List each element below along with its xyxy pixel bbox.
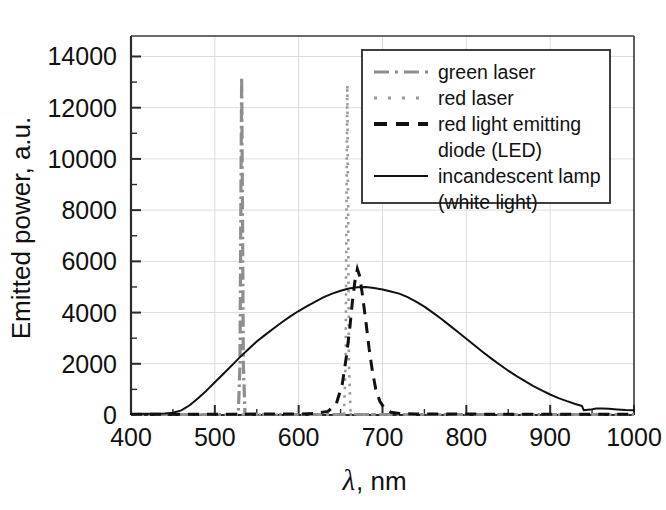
legend-label: red light emitting <box>438 113 581 135</box>
x-axis-title-symbol: λ <box>341 464 355 496</box>
legend-label-continued: (white light) <box>438 191 538 213</box>
spectrum-chart-figure: 4005006007008009001000 02000400060008000… <box>0 0 666 510</box>
legend-label: incandescent lamp <box>438 165 601 187</box>
legend-label: green laser <box>438 61 536 83</box>
y-tick-label: 8000 <box>61 196 117 224</box>
y-tick-label: 0 <box>103 401 117 429</box>
legend-label: red laser <box>438 87 514 109</box>
chart-canvas: 4005006007008009001000 02000400060008000… <box>0 0 666 510</box>
y-tick-label: 10000 <box>47 145 117 173</box>
y-tick-label: 4000 <box>61 299 117 327</box>
x-tick-label: 600 <box>278 423 320 451</box>
y-axis-title: Emitted power, a.u. <box>6 117 36 340</box>
x-tick-label: 500 <box>194 423 236 451</box>
x-tick-label: 1000 <box>606 423 662 451</box>
legend-label-continued: diode (LED) <box>438 139 542 161</box>
y-tick-label: 6000 <box>61 247 117 275</box>
y-tick-label: 12000 <box>47 94 117 122</box>
x-tick-label: 900 <box>529 423 571 451</box>
x-axis-title-unit: , nm <box>356 466 407 496</box>
y-tick-label: 14000 <box>47 42 117 70</box>
y-tick-label: 2000 <box>61 350 117 378</box>
x-tick-label: 700 <box>362 423 404 451</box>
chart-legend[interactable]: green laserred laserred light emittingdi… <box>362 50 610 213</box>
x-tick-label: 800 <box>445 423 487 451</box>
